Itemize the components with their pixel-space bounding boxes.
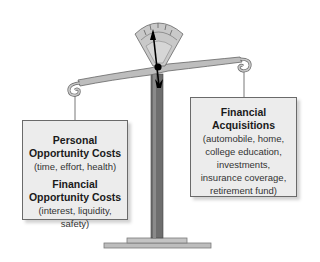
scale-base xyxy=(104,238,211,248)
acquisitions-detail-5: retirement fund) xyxy=(191,184,296,197)
scale-post xyxy=(151,74,163,238)
acquisitions-title-line1: Financial xyxy=(191,106,296,119)
financial-title-line1: Financial xyxy=(23,178,127,191)
acquisitions-detail-4: insurance coverage, xyxy=(191,171,296,184)
personal-detail: (time, effort, health) xyxy=(23,160,127,173)
right-pan-box-financial-acquisitions: Financial Acquisitions (automobile, home… xyxy=(190,97,297,197)
personal-title-line1: Personal xyxy=(23,134,127,147)
acquisitions-title-line2: Acquisitions xyxy=(191,119,296,132)
left-pan-box-opportunity-costs: Personal Opportunity Costs (time, effort… xyxy=(22,120,128,220)
personal-title-line2: Opportunity Costs xyxy=(23,147,127,160)
acquisitions-detail-2: college education, xyxy=(191,145,296,158)
acquisitions-detail-1: (automobile, home, xyxy=(191,132,296,145)
scale-dial xyxy=(135,23,183,66)
financial-title-line2: Opportunity Costs xyxy=(23,191,127,204)
financial-detail: (interest, liquidity, safety) xyxy=(23,204,127,230)
acquisitions-detail-3: investments, xyxy=(191,158,296,171)
